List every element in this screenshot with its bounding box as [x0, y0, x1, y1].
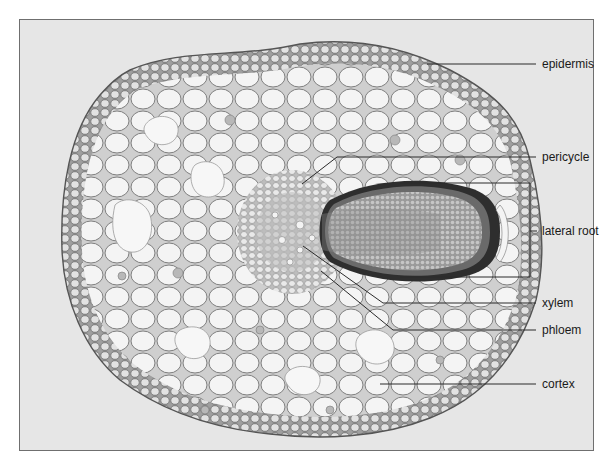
label-epidermis: epidermis	[542, 57, 594, 71]
label-xylem: xylem	[542, 296, 573, 310]
label-pericycle: pericycle	[542, 150, 589, 164]
root-cross-section-illustration	[0, 0, 612, 474]
label-cortex: cortex	[542, 377, 575, 391]
label-phloem: phloem	[542, 323, 581, 337]
lateral-root-structure	[320, 181, 509, 282]
label-lateral-root: lateral root	[542, 224, 599, 238]
